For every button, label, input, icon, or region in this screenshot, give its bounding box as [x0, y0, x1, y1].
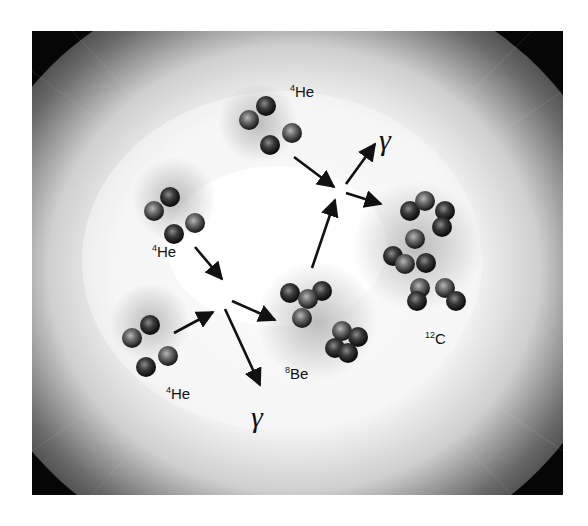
label-gamma-bottom: γ [251, 400, 264, 433]
triple-alpha-diagram: 4He 4He 4He 8Be 12C γ γ [32, 31, 563, 495]
label-gamma-top: γ [379, 123, 392, 156]
